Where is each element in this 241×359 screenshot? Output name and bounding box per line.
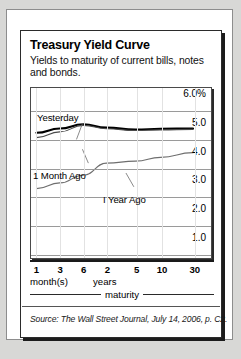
series-annotation-1-month-ago: 1 Month Ago bbox=[33, 170, 86, 181]
x-axis-title-row: maturity bbox=[30, 288, 214, 301]
y-gridline bbox=[31, 255, 211, 256]
figure-subtitle: Yields to maturity of current bills, not… bbox=[30, 55, 216, 80]
figure-card: Treasury Yield Curve Yields to maturity … bbox=[20, 30, 222, 338]
maturity-rule-right bbox=[143, 294, 214, 295]
series-annotation-yesterday: Yesterday bbox=[37, 112, 78, 123]
x-gridline bbox=[195, 88, 196, 258]
x-gridline bbox=[162, 88, 163, 258]
series-annotation-i-year-ago: I Year Ago bbox=[103, 194, 146, 205]
x-axis-title: maturity bbox=[105, 289, 139, 300]
page-sheet: Treasury Yield Curve Yields to maturity … bbox=[6, 9, 233, 340]
x-axis-tick-labels: 136251030 bbox=[30, 264, 214, 276]
annotation-leader-line bbox=[126, 173, 134, 187]
x-axis-tick-label: 10 bbox=[157, 264, 168, 275]
x-axis-tick-label: 1 bbox=[34, 264, 39, 275]
x-axis-unit-labels: month(s) years bbox=[30, 276, 216, 288]
x-axis-tick-label: 30 bbox=[189, 264, 200, 275]
figure-title: Treasury Yield Curve bbox=[30, 38, 150, 52]
x-gridline bbox=[137, 88, 138, 258]
y-gridline bbox=[31, 140, 211, 141]
yield-curve-plot: 6.0%5.04.03.02.01.0Yesterday1 Month AgoI… bbox=[30, 87, 212, 259]
x-axis-rule bbox=[30, 260, 214, 262]
x-axis-tick-label: 5 bbox=[134, 264, 139, 275]
figure-page-background: Treasury Yield Curve Yields to maturity … bbox=[0, 0, 241, 359]
source-note: Source: The Wall Street Journal, July 14… bbox=[30, 314, 227, 324]
x-axis-tick-label: 2 bbox=[105, 264, 110, 275]
x-axis-tick-label: 3 bbox=[57, 264, 62, 275]
maturity-rule-left bbox=[30, 294, 101, 295]
x-axis-tick-label: 6 bbox=[81, 264, 86, 275]
x-axis-unit-years: years bbox=[93, 276, 116, 287]
y-gridline bbox=[31, 226, 211, 227]
x-axis-unit-months: month(s) bbox=[30, 276, 68, 287]
x-gridline bbox=[107, 88, 108, 258]
source-bar: Source: The Wall Street Journal, July 14… bbox=[22, 306, 220, 338]
